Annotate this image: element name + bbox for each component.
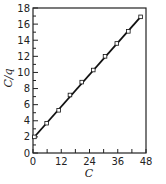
y-tick-label: 14 — [17, 35, 30, 46]
y-tick-label: 12 — [17, 51, 30, 62]
square-marker-icon — [57, 109, 61, 113]
square-marker-icon — [68, 93, 72, 97]
square-marker-icon — [45, 121, 49, 125]
square-marker-icon — [80, 80, 84, 84]
y-tick-label: 10 — [17, 67, 30, 78]
x-tick-label: 12 — [55, 156, 68, 167]
square-marker-icon — [103, 55, 107, 59]
y-tick-label: 2 — [24, 131, 30, 142]
y-axis-label: C/q — [2, 68, 15, 87]
x-tick-label: 0 — [30, 156, 36, 167]
square-marker-icon — [33, 135, 37, 139]
x-tick-label: 36 — [111, 156, 124, 167]
fit-line — [33, 16, 141, 138]
x-axis-ticks: 012243648 — [30, 149, 153, 167]
y-tick-label: 18 — [17, 3, 30, 14]
y-tick-label: 6 — [24, 99, 30, 110]
square-marker-icon — [127, 30, 131, 34]
y-tick-label: 16 — [17, 19, 30, 30]
y-tick-label: 4 — [24, 115, 30, 126]
chart: 024681012141618 012243648 C C/q — [0, 0, 166, 184]
square-marker-icon — [115, 42, 119, 46]
square-marker-icon — [139, 15, 143, 19]
x-tick-label: 24 — [83, 156, 96, 167]
x-tick-label: 48 — [140, 156, 153, 167]
regression-line — [33, 16, 141, 138]
square-marker-icon — [91, 68, 95, 72]
y-tick-label: 8 — [24, 83, 30, 94]
x-axis-label: C — [85, 167, 94, 180]
